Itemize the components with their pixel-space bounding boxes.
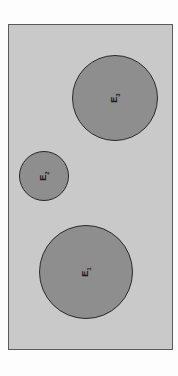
circle-e1-label: E1 bbox=[80, 267, 92, 276]
circle-e3-label: E3 bbox=[109, 93, 121, 102]
circle-e3: E3 bbox=[72, 55, 158, 141]
circle-e1: E1 bbox=[39, 225, 133, 319]
circle-e2: E2 bbox=[19, 151, 69, 201]
circle-e2-label: E2 bbox=[38, 171, 50, 180]
